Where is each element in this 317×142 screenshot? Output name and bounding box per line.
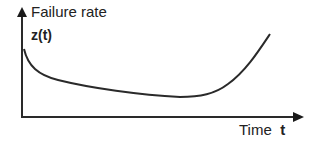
y-axis-arrow-icon <box>17 7 27 17</box>
y-axis-symbol: z(t) <box>31 27 52 43</box>
x-axis-arrow-icon <box>293 112 304 122</box>
x-axis-label-group: Time t <box>239 121 285 138</box>
y-axis-label: Failure rate <box>31 3 107 20</box>
failure-rate-curve <box>24 34 270 97</box>
x-axis-symbol: t <box>280 121 285 138</box>
x-axis-label: Time <box>239 121 272 138</box>
